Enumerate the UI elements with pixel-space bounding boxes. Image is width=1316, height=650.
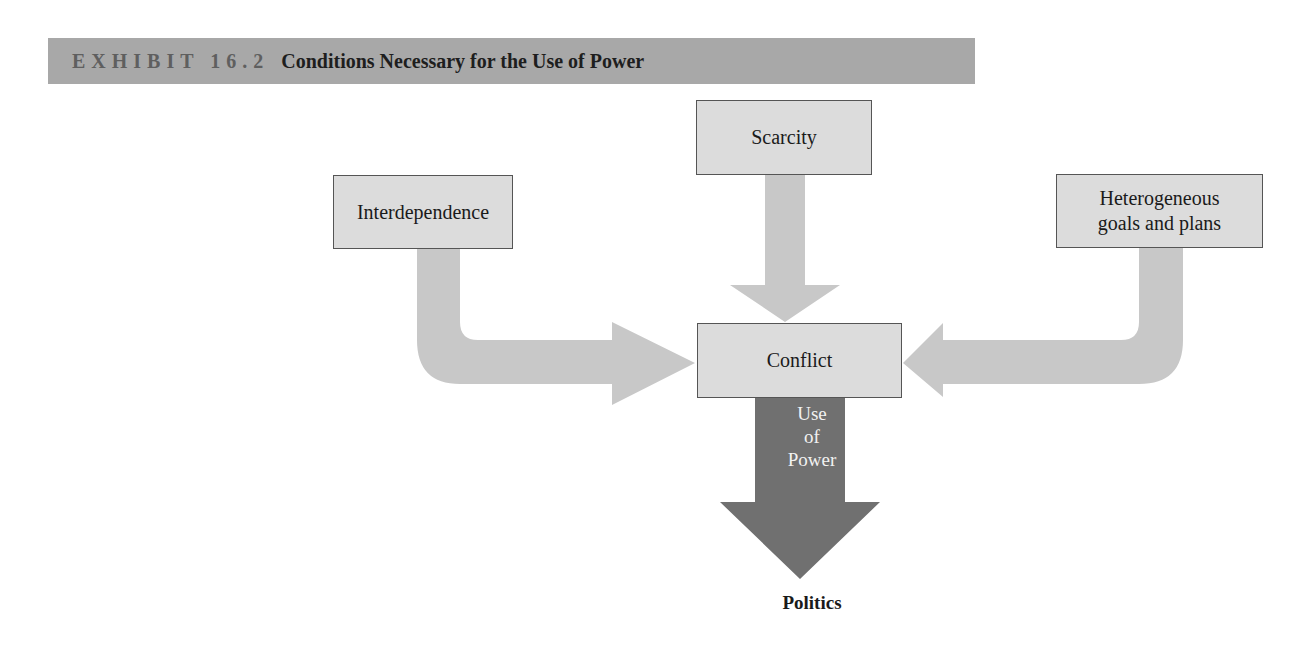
node-interdependence: Interdependence	[333, 175, 513, 249]
node-heterogeneous-goals: Heterogeneous goals and plans	[1056, 174, 1263, 248]
arrow-interdependence-to-conflict	[417, 248, 695, 405]
use-of-power-line-2: of	[756, 425, 868, 448]
node-scarcity: Scarcity	[696, 100, 872, 175]
arrow-scarcity-to-conflict	[730, 174, 840, 322]
use-of-power-line-3: Power	[756, 448, 868, 471]
outcome-politics: Politics	[760, 592, 864, 614]
node-scarcity-label: Scarcity	[751, 125, 817, 150]
node-conflict: Conflict	[697, 323, 902, 398]
node-conflict-label: Conflict	[767, 348, 833, 373]
diagram-arrows	[0, 0, 1316, 650]
use-of-power-label: Use of Power	[756, 402, 868, 471]
arrow-heterogeneous-to-conflict	[903, 247, 1183, 397]
use-of-power-line-1: Use	[756, 402, 868, 425]
node-interdependence-label: Interdependence	[357, 200, 489, 225]
node-heterogeneous-goals-label: Heterogeneous goals and plans	[1081, 186, 1238, 236]
